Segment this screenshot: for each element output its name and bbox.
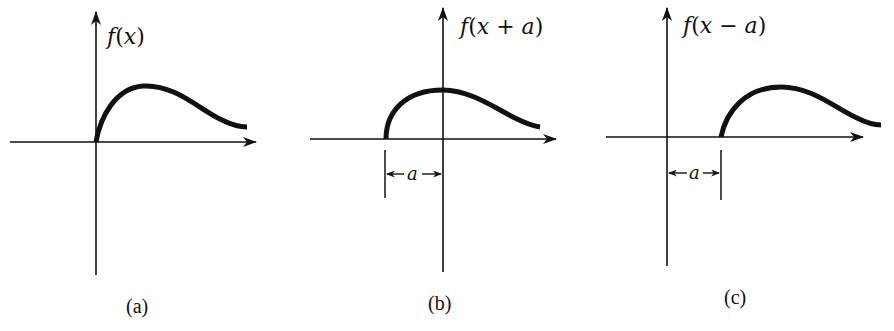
function-label: f(x − a): [681, 13, 766, 38]
panel-caption: (c): [724, 286, 746, 309]
panel-b: a f(x + a) (b): [310, 8, 556, 315]
function-label: f(x): [105, 24, 145, 49]
function-shift-diagram: f(x) (a) a f(x + a) (b) a f(x − a) (c): [0, 0, 894, 331]
panel-caption: (b): [428, 292, 451, 315]
curve-f-x-minus-a: [721, 87, 881, 137]
shift-label: a: [407, 163, 418, 184]
panel-caption: (a): [126, 295, 148, 318]
panel-c: a f(x − a) (c): [606, 8, 881, 309]
curve-f-x: [96, 86, 247, 142]
shift-label: a: [689, 162, 700, 183]
curve-f-x-plus-a: [386, 90, 540, 139]
function-label: f(x + a): [458, 14, 543, 39]
panel-a: f(x) (a): [10, 12, 256, 318]
